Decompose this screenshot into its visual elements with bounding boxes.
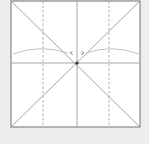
center-point [75,61,78,64]
origami-diagram [0,0,149,144]
